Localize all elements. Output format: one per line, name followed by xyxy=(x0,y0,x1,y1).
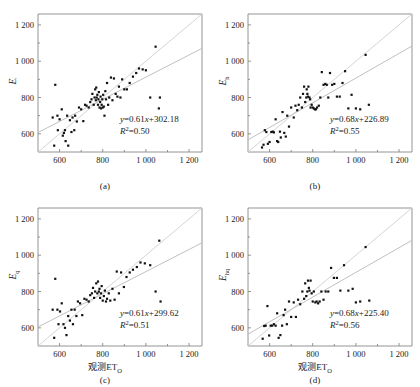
svg-text:1 200: 1 200 xyxy=(225,214,244,224)
panel-d: 6008001 0001 2006008001 0001 200y=0.68x+… xyxy=(210,194,420,387)
svg-text:800: 800 xyxy=(231,93,244,103)
panel-b: 6008001 0001 2006008001 0001 200y=0.68x+… xyxy=(210,0,420,193)
panel-a-ylabel: E′ xyxy=(8,69,20,93)
svg-text:R2=0.56: R2=0.56 xyxy=(329,318,360,330)
svg-text:600: 600 xyxy=(263,155,276,165)
svg-text:1 200: 1 200 xyxy=(179,349,198,359)
svg-text:600: 600 xyxy=(21,323,34,333)
panel-c: 6008001 0001 2006008001 0001 200y=0.61x+… xyxy=(0,194,210,387)
svg-text:y=0.68x+225.40: y=0.68x+225.40 xyxy=(329,308,389,318)
panel-d-xlabel: 观测ETO xyxy=(210,360,420,374)
panel-a-plot: 6008001 0001 2006008001 0001 200y=0.61x+… xyxy=(0,0,210,193)
svg-text:1 000: 1 000 xyxy=(15,250,34,260)
panel-b-ylabel: Eh xyxy=(218,69,230,93)
svg-text:1 000: 1 000 xyxy=(136,349,155,359)
svg-text:800: 800 xyxy=(21,287,34,297)
svg-text:1 000: 1 000 xyxy=(136,155,155,165)
svg-text:800: 800 xyxy=(306,155,319,165)
svg-text:1 000: 1 000 xyxy=(15,56,34,66)
panel-c-xlabel: 观测ETO xyxy=(0,360,210,374)
svg-text:800: 800 xyxy=(306,349,319,359)
svg-text:1 000: 1 000 xyxy=(346,155,365,165)
panel-a: 6008001 0001 2006008001 0001 200y=0.61x+… xyxy=(0,0,210,193)
svg-text:600: 600 xyxy=(231,323,244,333)
panel-c-ylabel: Eq xyxy=(8,263,20,287)
svg-text:1 200: 1 200 xyxy=(15,20,34,30)
svg-text:1 200: 1 200 xyxy=(179,155,198,165)
svg-text:1 000: 1 000 xyxy=(225,56,244,66)
svg-text:800: 800 xyxy=(96,155,109,165)
svg-text:600: 600 xyxy=(21,129,34,139)
panel-c-plot: 6008001 0001 2006008001 0001 200y=0.61x+… xyxy=(0,194,210,387)
panel-b-plot: 6008001 0001 2006008001 0001 200y=0.68x+… xyxy=(210,0,420,193)
svg-text:600: 600 xyxy=(53,155,66,165)
svg-text:1 000: 1 000 xyxy=(346,349,365,359)
svg-text:1 200: 1 200 xyxy=(389,349,408,359)
svg-text:R2=0.55: R2=0.55 xyxy=(329,124,360,136)
panel-c-caption: (c) xyxy=(0,375,210,385)
panel-d-caption: (d) xyxy=(210,375,420,385)
panel-b-caption: (b) xyxy=(210,181,420,191)
svg-text:y=0.61x+302.18: y=0.61x+302.18 xyxy=(119,114,179,124)
svg-text:1 200: 1 200 xyxy=(225,20,244,30)
svg-text:1 000: 1 000 xyxy=(225,250,244,260)
svg-text:R2=0.50: R2=0.50 xyxy=(119,124,150,136)
svg-text:600: 600 xyxy=(53,349,66,359)
panel-d-plot: 6008001 0001 2006008001 0001 200y=0.68x+… xyxy=(210,194,420,387)
svg-text:1 200: 1 200 xyxy=(389,155,408,165)
svg-text:600: 600 xyxy=(231,129,244,139)
svg-text:800: 800 xyxy=(21,93,34,103)
svg-text:1 200: 1 200 xyxy=(15,214,34,224)
svg-text:600: 600 xyxy=(263,349,276,359)
svg-text:y=0.68x+226.89: y=0.68x+226.89 xyxy=(329,114,389,124)
svg-text:R2=0.51: R2=0.51 xyxy=(119,318,150,330)
panel-d-ylabel: Ehq xyxy=(218,263,230,287)
svg-text:800: 800 xyxy=(231,287,244,297)
svg-text:y=0.61x+299.62: y=0.61x+299.62 xyxy=(119,308,179,318)
svg-text:800: 800 xyxy=(96,349,109,359)
panel-a-caption: (a) xyxy=(0,181,210,191)
figure-scatter-grid: 6008001 0001 2006008001 0001 200y=0.61x+… xyxy=(0,0,420,387)
